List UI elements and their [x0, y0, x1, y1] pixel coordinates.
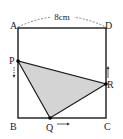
arrow-right-icon [57, 123, 70, 126]
point-label-p: P [9, 55, 15, 66]
point-q [48, 116, 52, 120]
point-p [16, 59, 20, 63]
point-label-r: R [107, 79, 114, 90]
side-length-label: 8cm [54, 12, 70, 22]
triangle-pqr [18, 61, 106, 118]
vertex-label-d: D [105, 20, 112, 31]
geometry-diagram: 8cm A D B C P Q R [0, 0, 123, 139]
arrow-up-icon [107, 66, 110, 78]
point-label-q: Q [46, 122, 54, 133]
vertex-label-b: B [10, 121, 17, 132]
vertex-label-a: A [10, 20, 18, 31]
arrow-down-icon [13, 67, 16, 78]
vertex-label-c: C [104, 121, 111, 132]
